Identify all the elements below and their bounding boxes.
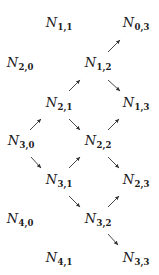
node-subscript: 0,3 bbox=[135, 22, 150, 32]
node-symbol: N bbox=[46, 95, 57, 110]
node-n21: N2,1 bbox=[46, 94, 73, 110]
node-subscript: 1,2 bbox=[97, 62, 112, 72]
node-symbol: N bbox=[46, 15, 57, 30]
node-n33: N3,3 bbox=[123, 249, 150, 265]
node-symbol: N bbox=[123, 172, 134, 187]
node-n41: N4,1 bbox=[46, 249, 73, 265]
node-n31: N3,1 bbox=[46, 171, 73, 187]
node-subscript: 1,1 bbox=[58, 22, 73, 32]
node-symbol: N bbox=[7, 211, 18, 226]
node-symbol: N bbox=[123, 250, 134, 265]
node-subscript: 4,1 bbox=[58, 257, 73, 267]
node-subscript: 2,0 bbox=[19, 62, 34, 72]
node-symbol: N bbox=[8, 133, 19, 148]
node-n03: N0,3 bbox=[123, 14, 150, 30]
arrow-n31-to-n32 bbox=[69, 196, 80, 207]
node-n40: N4,0 bbox=[7, 210, 34, 226]
node-subscript: 2,1 bbox=[58, 102, 73, 112]
arrow-n32-to-n23 bbox=[108, 196, 119, 207]
node-symbol: N bbox=[85, 133, 96, 148]
lattice-diagram: N1,1 N0,3 N2,0 N1,2 N2,1 N1,3 N3,0 N2,2 … bbox=[0, 0, 159, 275]
arrow-n30-to-n31 bbox=[31, 157, 41, 168]
node-subscript: 3,3 bbox=[135, 257, 150, 267]
arrow-n22-to-n23 bbox=[108, 157, 119, 168]
arrow-n12-to-n13 bbox=[108, 80, 120, 91]
node-subscript: 3,0 bbox=[20, 140, 35, 150]
node-symbol: N bbox=[123, 15, 134, 30]
node-symbol: N bbox=[123, 95, 134, 110]
node-n12: N1,2 bbox=[85, 54, 112, 70]
arrow-n21-to-n22 bbox=[69, 119, 80, 130]
node-n13: N1,3 bbox=[123, 94, 150, 110]
node-symbol: N bbox=[85, 211, 96, 226]
node-subscript: 1,3 bbox=[135, 102, 150, 112]
node-subscript: 3,2 bbox=[97, 218, 112, 228]
node-subscript: 2,3 bbox=[135, 179, 150, 189]
node-n20: N2,0 bbox=[7, 54, 34, 70]
node-symbol: N bbox=[7, 55, 18, 70]
arrow-n12-to-n03 bbox=[108, 40, 120, 52]
node-n23: N2,3 bbox=[123, 171, 150, 187]
node-n30: N3,0 bbox=[8, 132, 35, 148]
arrow-n31-to-n22 bbox=[69, 157, 80, 168]
node-subscript: 3,1 bbox=[58, 179, 73, 189]
node-symbol: N bbox=[46, 172, 57, 187]
arrow-n30-to-n21 bbox=[30, 119, 41, 130]
arrow-n21-to-n12 bbox=[69, 80, 80, 91]
node-subscript: 2,2 bbox=[97, 140, 112, 150]
arrow-n32-to-n33 bbox=[108, 234, 118, 245]
node-n32: N3,2 bbox=[85, 210, 112, 226]
node-n11: N1,1 bbox=[46, 14, 73, 30]
node-symbol: N bbox=[85, 55, 96, 70]
node-subscript: 4,0 bbox=[19, 218, 34, 228]
node-symbol: N bbox=[46, 250, 57, 265]
arrow-n22-to-n13 bbox=[108, 119, 119, 130]
node-n22: N2,2 bbox=[85, 132, 112, 148]
